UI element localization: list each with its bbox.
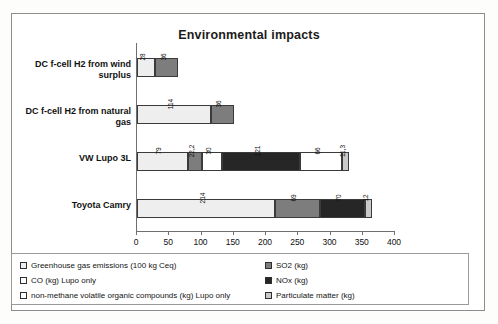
x-axis-tick-label: 0 (134, 237, 139, 247)
category-label: DC f-cell H2 from natural gas (15, 106, 131, 128)
bar-segment: 22,2 (188, 152, 202, 171)
bar-segment: 28 (137, 58, 155, 77)
bar-value-label: 114 (167, 99, 174, 109)
bar-value-label: 66 (314, 147, 321, 154)
legend-swatch-icon (265, 277, 272, 284)
x-axis-tick (201, 231, 202, 235)
legend-label: CO (kg) Lupo only (31, 276, 96, 285)
legend-column-right: SO2 (kg)NOx (kg)Particulate matter (kg) (265, 258, 465, 303)
legend-item: Particulate matter (kg) (265, 288, 465, 302)
bar-value-label: 36 (160, 53, 167, 60)
bar-value-label: 69 (290, 194, 297, 201)
legend-label: Greenhouse gas emissions (100 kg Ceq) (31, 261, 176, 270)
x-axis-tick (265, 231, 266, 235)
legend-swatch-icon (265, 292, 272, 299)
scanned-page: Environmental impacts DC f-cell H2 from … (0, 0, 498, 324)
chart-title: Environmental impacts (12, 28, 486, 42)
bar-value-label: 36 (215, 100, 222, 107)
x-axis-tick-label: 100 (193, 237, 207, 247)
x-axis-tick (168, 231, 169, 235)
plot-area: DC f-cell H2 from wind surplus2836DC f-c… (136, 43, 394, 231)
legend-item: NOx (kg) (265, 273, 465, 287)
x-axis-tick (362, 231, 363, 235)
stacked-bar: 7922,2301216611,3 (137, 152, 349, 171)
bar-segment: 70 (320, 199, 365, 218)
bar-segment: 11,3 (342, 152, 349, 171)
legend-label: SO2 (kg) (276, 261, 308, 270)
legend-swatch-icon (20, 277, 27, 284)
legend-label: non-methane volatile organic compounds (… (31, 291, 230, 300)
legend-swatch-icon (20, 262, 27, 269)
x-axis-tick-label: 400 (387, 237, 401, 247)
chart-category-row: Toyota Camry214697012 (137, 184, 395, 231)
bar-value-label: 11,3 (339, 145, 346, 157)
bar-value-label: 214 (199, 193, 206, 204)
chart-category-row: DC f-cell H2 from natural gas11436 (137, 90, 395, 137)
legend-label: Particulate matter (kg) (276, 291, 355, 300)
bar-value-label: 121 (254, 146, 261, 157)
x-axis-tick (297, 231, 298, 235)
bar-segment: 36 (155, 58, 178, 77)
bar-segment: 36 (211, 105, 234, 124)
bar-value-label: 30 (205, 147, 212, 154)
x-axis-tick (136, 231, 137, 235)
bar-segment: 79 (137, 152, 188, 171)
bar-value-label: 22,2 (188, 145, 195, 158)
bar-value-label: 70 (335, 194, 342, 201)
bar-segment: 214 (137, 199, 275, 218)
bar-segment: 66 (300, 152, 343, 171)
x-axis-tick-label: 50 (164, 237, 173, 247)
legend-swatch-icon (20, 292, 27, 299)
legend-item: non-methane volatile organic compounds (… (20, 288, 265, 302)
legend-label: NOx (kg) (276, 276, 308, 285)
chart-category-row: DC f-cell H2 from wind surplus2836 (137, 43, 395, 90)
bar-segment: 12 (365, 199, 373, 218)
bar-segment: 30 (202, 152, 221, 171)
x-axis-tick-label: 350 (355, 237, 369, 247)
x-axis-tick (233, 231, 234, 235)
bar-segment: 121 (222, 152, 300, 171)
x-axis-tick-label: 300 (322, 237, 336, 247)
x-axis-tick (330, 231, 331, 235)
legend-swatch-icon (265, 262, 272, 269)
bar-segment: 69 (275, 199, 320, 218)
category-label: Toyota Camry (15, 200, 131, 211)
stacked-bar: 11436 (137, 105, 234, 124)
bar-segment: 114 (137, 105, 211, 124)
legend-column-left: Greenhouse gas emissions (100 kg Ceq)CO … (20, 258, 265, 303)
bar-value-label: 12 (362, 194, 369, 201)
category-label: VW Lupo 3L (15, 153, 131, 164)
legend-item: Greenhouse gas emissions (100 kg Ceq) (20, 258, 265, 272)
legend-item: CO (kg) Lupo only (20, 273, 265, 287)
x-axis-tick-label: 150 (226, 237, 240, 247)
bar-value-label: 79 (155, 147, 162, 154)
stacked-bar: 2836 (137, 58, 178, 77)
bar-value-label: 28 (139, 53, 146, 60)
chart-category-row: VW Lupo 3L7922,2301216611,3 (137, 137, 395, 184)
x-axis-tick-label: 250 (290, 237, 304, 247)
legend-item: SO2 (kg) (265, 258, 465, 272)
stacked-bar: 214697012 (137, 199, 372, 218)
category-label: DC f-cell H2 from wind surplus (15, 59, 131, 81)
chart-legend: Greenhouse gas emissions (100 kg Ceq)CO … (11, 253, 469, 305)
x-axis-tick (394, 231, 395, 235)
x-axis-tick-label: 200 (258, 237, 272, 247)
